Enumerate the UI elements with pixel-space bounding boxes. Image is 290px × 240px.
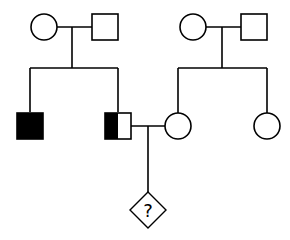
male-half-shaded-II-2 — [105, 113, 131, 139]
unknown-label: ? — [143, 200, 153, 221]
male-affected-II-1 — [17, 113, 43, 139]
male-unaffected-I-4 — [241, 14, 267, 40]
pedigree-diagram: ? — [0, 0, 290, 240]
female-unaffected-I-3 — [180, 14, 206, 40]
female-unaffected-II-3 — [165, 113, 191, 139]
female-unaffected-II-4 — [254, 113, 280, 139]
male-unaffected-I-2 — [92, 14, 118, 40]
female-unaffected-I-1 — [31, 14, 57, 40]
connector-lines — [30, 27, 267, 192]
half-shade — [105, 113, 118, 139]
